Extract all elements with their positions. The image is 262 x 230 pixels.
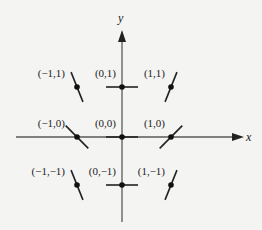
point-marker — [74, 182, 80, 188]
point-marker — [168, 182, 174, 188]
point-label: (−1,0) — [38, 117, 66, 130]
slope-segments: (−1,1)(0,1)(1,1)(−1,0)(0,0)(1,0)(−1,−1)(… — [32, 67, 183, 200]
point-label: (−1,1) — [38, 67, 66, 80]
point-label: (1,−1) — [138, 165, 166, 178]
point-marker — [168, 134, 174, 140]
point-marker — [119, 134, 125, 140]
point-label: (0,0) — [95, 117, 116, 130]
point-marker — [168, 84, 174, 90]
point-marker — [119, 182, 125, 188]
point-label: (−1,−1) — [32, 165, 66, 178]
point-label: (0,−1) — [89, 165, 117, 178]
point-label: (1,0) — [144, 117, 165, 130]
y-axis-arrow-icon — [118, 30, 126, 42]
point-label: (0,1) — [95, 67, 116, 80]
x-axis-arrow-icon — [232, 133, 244, 141]
slope-field-diagram: x y (−1,1)(0,1)(1,1)(−1,0)(0,0)(1,0)(−1,… — [0, 0, 262, 230]
point-marker — [74, 134, 80, 140]
x-axis-label: x — [245, 130, 252, 144]
y-axis-label: y — [117, 11, 124, 25]
point-marker — [119, 84, 125, 90]
point-label: (1,1) — [144, 67, 165, 80]
point-marker — [74, 84, 80, 90]
